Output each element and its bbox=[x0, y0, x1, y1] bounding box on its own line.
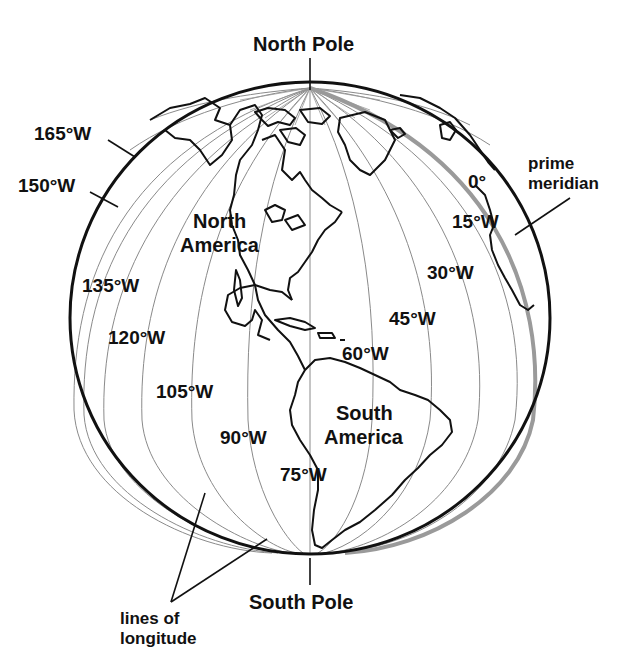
pointer-prime-meridian bbox=[515, 198, 570, 235]
pointer-longitude-1 bbox=[171, 493, 205, 602]
south-pole-label: South Pole bbox=[249, 592, 353, 612]
south-america-label-1: South bbox=[336, 403, 393, 423]
south-america-label-2: America bbox=[324, 427, 403, 447]
label-90w: 90°W bbox=[220, 428, 267, 447]
north-america-label-2: America bbox=[180, 235, 259, 255]
great-lakes bbox=[265, 205, 305, 230]
lines-of-longitude-label-1: lines of bbox=[120, 610, 180, 628]
label-15w: 15°W bbox=[452, 212, 499, 231]
label-30w: 30°W bbox=[427, 263, 474, 282]
coast-east-us bbox=[288, 212, 342, 300]
prime-meridian-label-1: prime bbox=[528, 155, 574, 173]
label-45w: 45°W bbox=[389, 309, 436, 328]
label-60w: 60°W bbox=[342, 344, 389, 363]
lines-of-longitude-label-2: longitude bbox=[120, 630, 196, 648]
label-0: 0° bbox=[468, 172, 486, 191]
label-105w: 105°W bbox=[156, 382, 213, 401]
coast-south-america bbox=[290, 358, 452, 548]
coast-greenland bbox=[338, 112, 395, 175]
globe-diagram bbox=[0, 0, 641, 666]
label-75w: 75°W bbox=[280, 465, 327, 484]
pointer-165w bbox=[108, 140, 135, 157]
north-america-label-1: North bbox=[193, 211, 246, 231]
north-pole-label: North Pole bbox=[253, 34, 354, 54]
label-165w: 165°W bbox=[34, 124, 91, 143]
label-120w: 120°W bbox=[108, 328, 165, 347]
prime-meridian-label-2: meridian bbox=[528, 175, 599, 193]
coast-east-canada bbox=[262, 135, 342, 212]
label-150w: 150°W bbox=[18, 176, 75, 195]
label-135w: 135°W bbox=[82, 276, 139, 295]
